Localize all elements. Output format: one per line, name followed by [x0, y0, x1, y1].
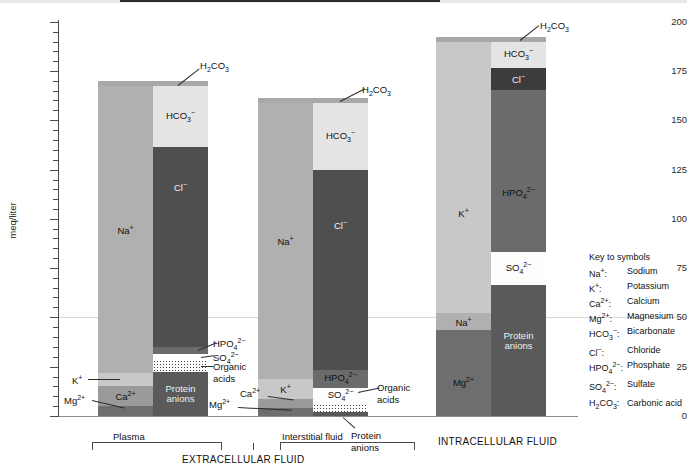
y-tick-minor	[53, 110, 59, 111]
segment-label-ca: Ca2+	[113, 389, 137, 402]
y-tick-label-125: 125	[653, 165, 687, 174]
y-tick-minor	[53, 307, 59, 308]
segment-plasma-mg	[98, 406, 153, 416]
segment-label-hpo4: HPO42−	[500, 185, 536, 202]
y-tick-25	[50, 367, 59, 368]
key-symbol-k: K+:	[589, 280, 627, 295]
y-tick-label-100: 100	[653, 214, 687, 223]
annotation-organic-acids-interstitial: Organicacids	[377, 382, 410, 405]
key-row-so4: SO42−: Sulfate	[589, 378, 682, 397]
key-row-cl: Cl−: Chloride	[589, 344, 682, 359]
y-tick-0	[50, 416, 59, 417]
bar-plasma-anions: HCO3− Cl− Proteinanions	[153, 81, 208, 416]
y-tick-minor	[53, 209, 59, 210]
y-tick-75	[50, 268, 59, 269]
y-tick-minor	[53, 238, 59, 239]
bracket-interstitial	[280, 442, 415, 450]
annotation-h2co3-interstitial: H2CO3	[362, 84, 391, 99]
segment-label-hco3: HCO3−	[502, 46, 535, 63]
bar-intracellular-anions: HCO3− Cl− HPO42− SO42− Proteinanions	[491, 37, 546, 416]
key-row-k: K+: Potassium	[589, 280, 682, 295]
segment-intracellular-cl: Cl−	[491, 68, 546, 90]
y-tick-minor	[53, 61, 59, 62]
segment-intracellular-hpo4: HPO42−	[491, 90, 546, 252]
segment-interstitial-na: Na+	[258, 103, 313, 379]
segment-interstitial-organic-acids	[313, 404, 368, 412]
y-tick-minor	[53, 81, 59, 82]
annotation-h2co3-intracellular: H2CO3	[540, 20, 569, 35]
segment-plasma-hco3: HCO3−	[153, 86, 208, 147]
segment-intracellular-so4: SO42−	[491, 252, 546, 285]
y-tick-minor	[53, 297, 59, 298]
y-tick-minor	[53, 150, 59, 151]
annotation-organic-acids-plasma: Organicacids	[213, 361, 246, 384]
bar-interstitial-cations: Na+ K+	[258, 98, 313, 416]
segment-interstitial-so4: SO42−	[313, 388, 368, 404]
key-title: Key to symbols	[589, 251, 682, 263]
key-row-hpo4: HPO42−: Phosphate	[589, 359, 682, 378]
key-name-mg: Magnesium	[627, 310, 674, 325]
key-symbol-na: Na+:	[589, 265, 627, 280]
y-tick-minor	[53, 100, 59, 101]
key-row-hco3: HCO3−: Bicarbonate	[589, 325, 682, 344]
bar-interstitial-anions: HCO3− Cl− HPO42− SO42−	[313, 98, 368, 416]
y-tick-minor	[53, 130, 59, 131]
key-name-ca: Calcium	[627, 295, 660, 310]
bar-plasma-cations: Na+ Ca2+	[98, 81, 153, 416]
key-symbol-hpo4: HPO42−:	[589, 359, 627, 378]
y-tick-label-175: 175	[653, 66, 687, 75]
key-name-na: Sodium	[627, 265, 658, 280]
y-tick-minor	[53, 189, 59, 190]
segment-label-cl: Cl−	[332, 218, 349, 231]
segment-label-hco3: HCO3−	[324, 128, 357, 145]
y-tick-minor	[53, 248, 59, 249]
caption-interstitial: Interstitial fluid	[282, 431, 343, 442]
y-tick-minor	[53, 347, 59, 348]
segment-label-cl: Cl−	[510, 72, 527, 85]
segment-interstitial-protein	[313, 412, 368, 416]
y-tick-50	[50, 317, 59, 318]
y-tick-minor	[53, 180, 59, 181]
segment-intracellular-mg: Mg2+	[436, 330, 491, 416]
segment-label-protein: Proteinanions	[163, 384, 197, 404]
segment-label-k: K+	[456, 206, 470, 219]
key-row-h2co3: H2CO3: Carbonic acid	[589, 397, 682, 413]
segment-intracellular-na: Na+	[436, 313, 491, 330]
leader-protein-interstitial	[343, 417, 356, 428]
key-name-k: Potassium	[627, 280, 669, 295]
y-tick-175	[50, 71, 59, 72]
y-tick-minor	[53, 229, 59, 230]
key-symbol-h2co3: H2CO3:	[589, 397, 627, 413]
segment-intracellular-hco3: HCO3−	[491, 42, 546, 68]
y-tick-minor	[53, 396, 59, 397]
segment-intracellular-protein: Proteinanions	[491, 285, 546, 416]
segment-label-hpo4: HPO42−	[322, 370, 358, 387]
y-tick-minor	[53, 140, 59, 141]
key-name-so4: Sulfate	[627, 378, 655, 397]
y-tick-100	[50, 219, 59, 220]
key-name-hpo4: Phosphate	[627, 359, 670, 378]
segment-label-protein: Proteinanions	[501, 331, 535, 351]
segment-interstitial-hco3: HCO3−	[313, 103, 368, 170]
y-tick-200	[50, 22, 59, 23]
segment-plasma-na: Na+	[98, 86, 153, 373]
y-tick-label-150: 150	[653, 115, 687, 124]
segment-label-na: Na+	[275, 234, 295, 247]
y-tick-minor	[53, 337, 59, 338]
segment-intracellular-k: K+	[436, 42, 491, 313]
y-tick-minor	[53, 327, 59, 328]
segment-plasma-protein: Proteinanions	[153, 372, 208, 416]
key-name-h2co3: Carbonic acid	[627, 397, 682, 413]
annotation-k-plasma: K+	[72, 372, 82, 386]
x-axis-baseline	[58, 416, 578, 417]
annotation-ca-interstitial: Ca2+	[240, 385, 260, 399]
segment-label-mg: Mg2+	[451, 375, 476, 388]
y-tick-minor	[53, 160, 59, 161]
caption-plasma: Plasma	[113, 431, 145, 442]
scan-edge-artifact-dark	[120, 0, 440, 2]
y-tick-150	[50, 120, 59, 121]
y-tick-minor	[53, 288, 59, 289]
key-symbol-ca: Ca2+:	[589, 295, 627, 310]
segment-plasma-cl: Cl−	[153, 147, 208, 347]
key-symbol-cl: Cl−:	[589, 344, 627, 359]
